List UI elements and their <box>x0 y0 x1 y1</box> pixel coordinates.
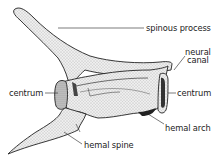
label-hemal-arch: hemal arch <box>165 124 211 132</box>
hemal-spine-shape <box>8 108 86 154</box>
label-hemal-spine: hemal spine <box>84 141 134 149</box>
label-neural-canal-line2: canal <box>187 56 209 64</box>
neural-canal-opening <box>161 78 165 108</box>
label-centrum-left: centrum <box>9 89 43 97</box>
left-centrum-face <box>55 81 68 110</box>
vertebra-diagram: spinous process neural canal centrum cen… <box>0 0 216 158</box>
hemal-arch-leader <box>148 114 164 124</box>
hemal-spine-leader <box>64 132 82 144</box>
label-spinous-process: spinous process <box>146 24 211 32</box>
neural-canal-leader <box>174 56 185 70</box>
label-centrum-right: centrum <box>177 89 211 97</box>
